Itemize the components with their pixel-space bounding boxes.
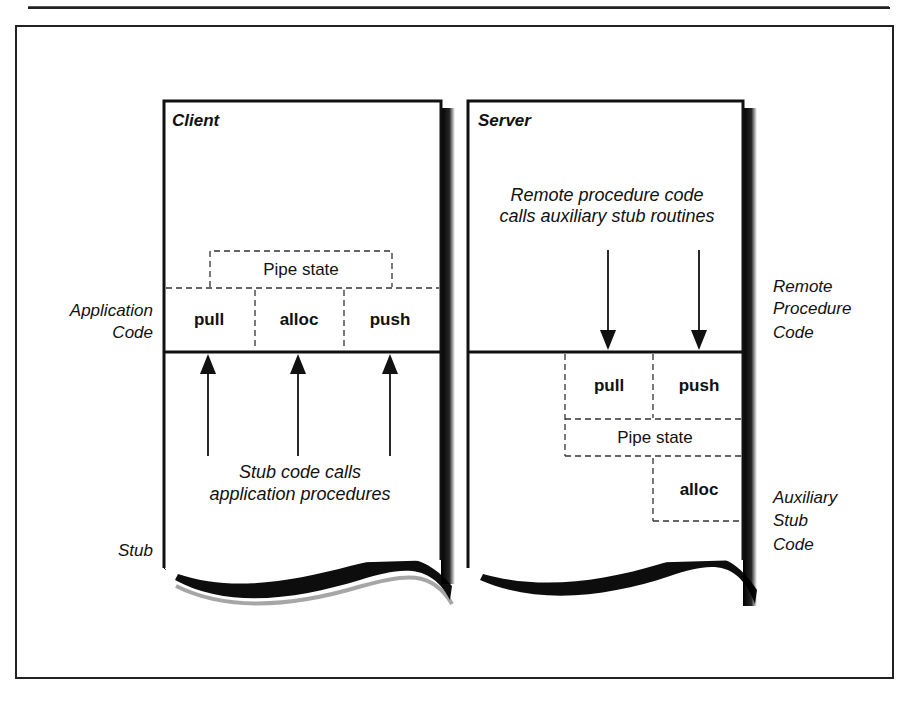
client-caption-line1: Stub code calls	[239, 462, 361, 482]
figure-border	[16, 26, 509, 48]
label-procedure: Procedure	[773, 299, 851, 318]
label-remote: Remote	[773, 277, 833, 296]
label-application: Application	[69, 301, 153, 320]
client-pipe-state: Pipe state	[263, 260, 339, 279]
server-caption-line2: calls auxiliary stub routines	[499, 206, 714, 226]
server-pipe-state: Pipe state	[617, 428, 693, 447]
server-cell-alloc: alloc	[680, 480, 719, 499]
label-stub: Stub	[118, 541, 153, 560]
client-title: Client	[172, 111, 221, 130]
client-cell-alloc: alloc	[280, 310, 319, 329]
diagram-canvas: Client Pipe state pull alloc push Stub c…	[0, 0, 914, 701]
client-cell-push: push	[370, 310, 411, 329]
server-cell-pull: pull	[594, 376, 624, 395]
server-panel	[468, 101, 757, 606]
label-aux-code: Code	[773, 535, 814, 554]
client-cell-pull: pull	[194, 310, 224, 329]
label-aux-stub: Stub	[773, 511, 808, 530]
server-cell-push: push	[679, 376, 720, 395]
label-code: Code	[773, 323, 814, 342]
label-application-code: Code	[112, 323, 153, 342]
client-caption-line2: application procedures	[209, 484, 390, 504]
label-auxiliary: Auxiliary	[772, 488, 839, 507]
client-panel	[164, 101, 455, 604]
server-title: Server	[478, 111, 532, 130]
server-caption-line1: Remote procedure code	[510, 185, 703, 205]
